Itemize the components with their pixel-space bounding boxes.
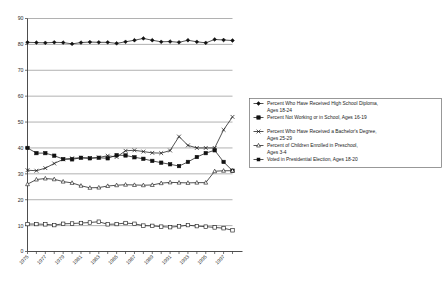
series-4-p19-marker-open-square [195, 224, 199, 228]
series-4-p14-marker-open-square [151, 224, 155, 228]
series-0-p13-marker-diamond [141, 37, 145, 41]
x-tick-label-1987: 1987 [125, 253, 137, 265]
legend-item-3-label-line-0: Percent of Children Enrolled in Preschoo… [267, 143, 358, 148]
series-0-p1-marker-diamond [35, 41, 39, 45]
series-1-p12-marker-square [133, 156, 137, 160]
x-tick-label-1991: 1991 [160, 253, 172, 265]
series-1 [26, 146, 235, 172]
legend-item-4-marker-square [257, 158, 260, 161]
series-1-p18-marker-square [186, 160, 190, 164]
legend-item-0-label-line-0: Percent Who Have Received High School Di… [267, 101, 378, 106]
series-1-p17-marker-square [177, 164, 181, 168]
y-axis [25, 19, 28, 252]
y-tick-label-10: 10 [18, 223, 24, 229]
series-1-p22-marker-square [222, 160, 226, 164]
x-tick-label-1983: 1983 [89, 253, 101, 265]
series-4-p23-marker-open-square [231, 229, 235, 233]
series-0-p19-marker-diamond [195, 40, 199, 44]
series-1-line [28, 148, 233, 171]
plot-series [26, 37, 235, 232]
legend-item-3-label-line-1: Ages 3-4 [267, 150, 287, 155]
x-tick-label-1993: 1993 [178, 253, 190, 265]
series-4-p9-marker-open-square [106, 223, 110, 227]
series-0-p21-marker-diamond [213, 38, 217, 42]
y-tick-label-0: 0 [21, 248, 24, 254]
series-0-p4-marker-diamond [61, 41, 65, 45]
x-axis-tick-labels: 1975197719791981198319851987198919911993… [18, 253, 226, 265]
legend-item-2-label-line-0: Percent Who Have Received a Bachelor's D… [267, 129, 377, 134]
series-2-p17-marker-x [177, 135, 181, 139]
series-4-p16-marker-open-square [168, 225, 172, 229]
series-2-p22-marker-x [222, 128, 226, 132]
x-tick-label-1981: 1981 [71, 253, 83, 265]
x-tick-label-1997: 1997 [214, 253, 226, 265]
x-tick-label-1979: 1979 [53, 253, 65, 265]
series-0-p14-marker-diamond [150, 38, 154, 42]
series-1-p20-marker-square [204, 151, 208, 155]
series-2-p3-marker-x [52, 162, 56, 166]
legend-item-1-marker-square [257, 116, 261, 120]
series-1-p11-marker-square [124, 154, 128, 158]
series-0-p15-marker-diamond [159, 40, 163, 44]
series-0-p8-marker-diamond [97, 40, 101, 44]
series-0-p7-marker-diamond [88, 40, 92, 44]
series-0-p6-marker-diamond [79, 41, 83, 45]
series-4-p20-marker-open-square [204, 225, 208, 229]
x-tick-label-1995: 1995 [196, 253, 208, 265]
series-4-p12-marker-open-square [133, 222, 137, 226]
series-1-p14-marker-square [151, 159, 155, 163]
x-tick-label-1977: 1977 [35, 253, 47, 265]
legend-item-0-label-line-1: Ages 18-24 [267, 108, 292, 113]
series-4-p3-marker-open-square [52, 223, 56, 227]
legend-item-2-label-line-1: Ages 25-29 [267, 136, 292, 141]
series-4-line [28, 222, 233, 231]
series-4-p1-marker-open-square [35, 222, 39, 226]
y-tick-label-50: 50 [18, 119, 24, 125]
legend-item-4-label-line-0: Voted in Presidential Election, Ages 18-… [267, 157, 358, 162]
series-0-p5-marker-diamond [70, 42, 74, 46]
series-4-p22-marker-open-square [222, 226, 226, 230]
series-1-p0-marker-square [26, 146, 30, 150]
series-3 [26, 169, 235, 190]
series-0-p0-marker-diamond [26, 40, 30, 44]
y-tick-label-30: 30 [18, 171, 24, 177]
series-4-p5-marker-open-square [70, 222, 74, 226]
series-1-p13-marker-square [142, 157, 146, 161]
series-4-p7-marker-open-square [88, 221, 92, 225]
series-4-p11-marker-open-square [124, 221, 128, 225]
series-1-p1-marker-square [35, 151, 39, 155]
series-0-p23-marker-diamond [231, 39, 235, 43]
grid-lines [28, 19, 233, 226]
series-1-p2-marker-square [44, 151, 48, 155]
series-3-p2-marker-triangle [43, 176, 47, 180]
series-2-line [28, 117, 233, 171]
series-0-p3-marker-diamond [52, 40, 56, 44]
line-chart: 0102030405060708090 19751977197919811983… [0, 0, 446, 283]
series-4-p21-marker-open-square [213, 226, 217, 230]
y-tick-label-60: 60 [18, 93, 24, 99]
series-4-p15-marker-open-square [159, 225, 163, 229]
series-1-p3-marker-square [52, 154, 56, 158]
legend-item-1[interactable]: Percent Not Working or in School, Ages 1… [254, 115, 367, 120]
series-2-p23-marker-x [231, 115, 235, 119]
x-tick-label-1989: 1989 [142, 253, 154, 265]
series-4-p13-marker-open-square [142, 224, 146, 228]
y-tick-label-90: 90 [18, 15, 24, 21]
series-4-p10-marker-open-square [115, 222, 119, 226]
series-0-p16-marker-diamond [168, 40, 172, 44]
x-tick-label-1985: 1985 [107, 253, 119, 265]
x-tick-label-1975: 1975 [18, 253, 30, 265]
series-3-line [28, 171, 233, 188]
y-tick-label-20: 20 [18, 197, 24, 203]
series-0-p12-marker-diamond [133, 38, 137, 42]
series-0-p18-marker-diamond [186, 38, 190, 42]
series-4 [26, 220, 235, 232]
chart-container: 0102030405060708090 19751977197919811983… [0, 0, 446, 283]
y-axis-tick-labels: 0102030405060708090 [18, 15, 24, 254]
series-2 [26, 115, 235, 173]
series-4-p18-marker-open-square [186, 223, 190, 227]
chart-legend: Percent Who Have Received High School Di… [250, 99, 442, 168]
series-4-p4-marker-open-square [61, 222, 65, 226]
legend-item-1-label-line-0: Percent Not Working or in School, Ages 1… [267, 115, 367, 120]
legend-item-4[interactable]: Voted in Presidential Election, Ages 18-… [254, 157, 359, 162]
